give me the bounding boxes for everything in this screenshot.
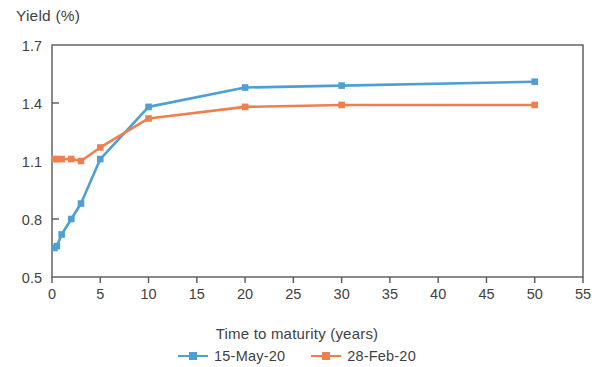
legend-label-series-1: 15-May-20: [214, 348, 285, 364]
data-point-marker: [78, 200, 85, 207]
legend-label-series-2: 28-Feb-20: [347, 348, 416, 364]
y-tick-label: 1.4: [22, 96, 42, 112]
x-tick-label: 15: [189, 286, 205, 302]
x-axis-ticks: [52, 277, 583, 283]
y-tick-label: 0.8: [22, 212, 42, 228]
y-axis-tick-labels: 0.50.81.11.41.7: [22, 38, 42, 286]
data-point-marker: [68, 216, 75, 223]
data-point-marker: [531, 78, 538, 85]
x-tick-label: 50: [527, 286, 543, 302]
legend-marker-series-1-icon: [178, 350, 208, 362]
x-axis-title: Time to maturity (years): [0, 325, 594, 342]
x-tick-label: 5: [96, 286, 104, 302]
data-point-marker: [242, 104, 249, 111]
y-tick-label: 0.5: [22, 270, 42, 286]
chart-legend: 15-May-20 28-Feb-20: [0, 348, 594, 364]
legend-item-series-1[interactable]: 15-May-20: [178, 348, 285, 364]
chart-container: Yield (%) 0510152025303540455055 0.50.81…: [0, 0, 594, 367]
data-point-marker: [58, 231, 65, 238]
series-line: [54, 105, 534, 161]
y-tick-label: 1.1: [22, 154, 42, 170]
legend-item-series-2[interactable]: 28-Feb-20: [311, 348, 416, 364]
chart-plot-area: 0510152025303540455055 0.50.81.11.41.7: [0, 0, 594, 367]
data-series-group: [51, 78, 538, 251]
data-series-2: [51, 102, 538, 165]
x-tick-label: 20: [237, 286, 253, 302]
data-point-marker: [97, 156, 104, 163]
x-tick-label: 40: [430, 286, 446, 302]
x-tick-label: 30: [334, 286, 350, 302]
data-point-marker: [97, 144, 104, 151]
x-tick-label: 55: [575, 286, 591, 302]
x-tick-label: 0: [48, 286, 56, 302]
y-tick-label: 1.7: [22, 38, 42, 54]
data-point-marker: [242, 84, 249, 91]
data-point-marker: [54, 243, 61, 250]
x-tick-label: 25: [285, 286, 301, 302]
x-tick-label: 45: [478, 286, 494, 302]
x-axis-tick-labels: 0510152025303540455055: [48, 286, 591, 302]
x-tick-label: 35: [382, 286, 398, 302]
data-point-marker: [78, 158, 85, 165]
data-point-marker: [531, 102, 538, 109]
x-tick-label: 10: [140, 286, 156, 302]
data-point-marker: [58, 156, 65, 163]
data-point-marker: [338, 82, 345, 89]
plot-frame: [52, 45, 583, 277]
data-point-marker: [68, 156, 75, 163]
data-point-marker: [145, 104, 152, 111]
legend-marker-series-2-icon: [311, 350, 341, 362]
data-point-marker: [338, 102, 345, 109]
data-point-marker: [145, 115, 152, 122]
